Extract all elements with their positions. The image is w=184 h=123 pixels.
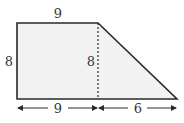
- height-label: 8: [87, 54, 95, 69]
- top-base-label: 9: [54, 6, 62, 21]
- trapezoid-diagram: 9 8 8 9 6: [0, 0, 184, 123]
- bottom-right-label: 6: [134, 101, 142, 116]
- bottom-left-label: 9: [54, 101, 62, 116]
- left-side-label: 8: [5, 54, 13, 69]
- trapezoid-shape: [17, 23, 177, 99]
